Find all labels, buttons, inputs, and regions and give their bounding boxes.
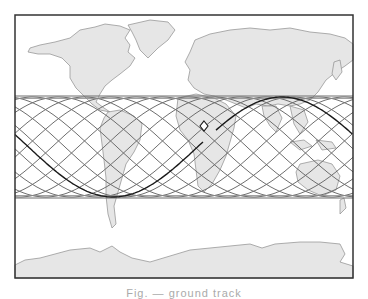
figure-caption: Fig. — ground track	[0, 287, 368, 299]
